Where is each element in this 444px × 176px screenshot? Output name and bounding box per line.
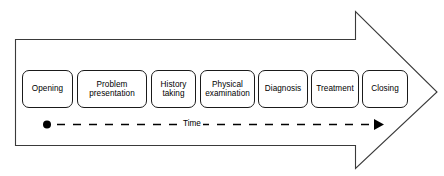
timeline-start-dot: [43, 121, 51, 129]
diagram-canvas: Opening Problem presentation History tak…: [0, 0, 444, 176]
time-axis: [0, 0, 444, 176]
timeline-arrowhead-icon: [374, 119, 384, 130]
time-axis-label: Time: [181, 118, 203, 129]
